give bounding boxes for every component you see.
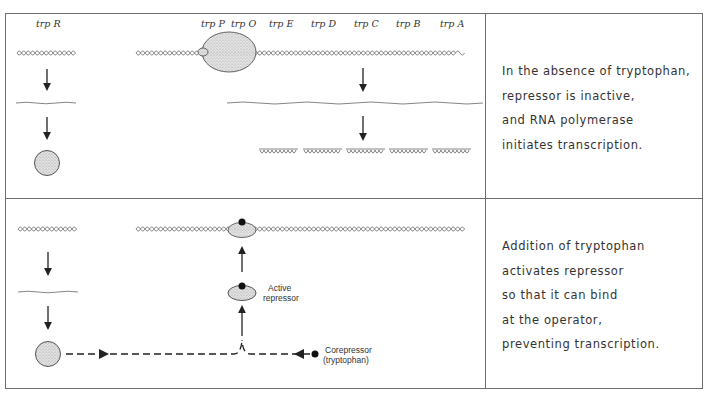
rna-polymerase-icon	[198, 32, 256, 72]
trp-operon-dna-icon	[136, 227, 465, 231]
corepressor-icon	[312, 351, 319, 358]
caption-line: so that it can bind	[502, 283, 660, 308]
gene-label-trpD: trp D	[311, 18, 336, 29]
gene-label-trpB: trp B	[396, 18, 420, 29]
trp-operon-dna-icon	[136, 51, 465, 55]
gene-label-trpA: trp A	[440, 18, 464, 29]
caption-line: preventing transcription.	[502, 332, 660, 357]
gene-label-trpE: trp E	[269, 18, 293, 29]
gene-label-trpP: trp P	[201, 18, 225, 29]
caption-line: repressor is inactive,	[502, 84, 690, 109]
caption-line: and RNA polymerase	[502, 108, 690, 133]
caption-line: at the operator,	[502, 308, 660, 333]
corepressor-label: Corepressor	[325, 345, 372, 355]
inactive-repressor-icon	[35, 151, 60, 176]
polypeptide-trpD-icon	[303, 149, 342, 153]
trp-mrna	[227, 102, 483, 104]
inactive-repressor-icon	[36, 342, 61, 367]
trpR-gene-dna-icon	[17, 51, 76, 55]
caption-presence: Addition of tryptophan activates repress…	[502, 234, 660, 357]
trpR-gene-dna-icon	[18, 227, 77, 231]
caption-line: initiates transcription.	[502, 133, 690, 158]
caption-line: In the absence of tryptophan,	[502, 59, 690, 84]
trpR-mrna	[16, 102, 76, 104]
polypeptide-trpE-icon	[259, 149, 298, 153]
gene-label-trpR: trp R	[36, 18, 61, 29]
gene-label-trpC: trp C	[354, 18, 379, 29]
arrow-right-icon	[99, 349, 109, 359]
polypeptide-trpB-icon	[389, 149, 428, 153]
gene-label-trpO: trp O	[231, 18, 256, 29]
caption-line: Addition of tryptophan	[502, 234, 660, 259]
active-repressor-icon	[228, 283, 256, 301]
polypeptide-trpA-icon	[432, 149, 471, 153]
trpR-mrna	[18, 291, 78, 293]
active-repressor-label: Active	[268, 283, 291, 293]
polypeptide-trpC-icon	[346, 149, 385, 153]
active-repressor-label: repressor	[263, 293, 299, 303]
arrow-left-icon	[294, 349, 304, 359]
caption-absence: In the absence of tryptophan, repressor …	[502, 59, 690, 157]
corepressor-label: (tryptophan)	[323, 355, 369, 365]
enzyme-polypeptides	[259, 149, 471, 153]
bound-repressor-icon	[228, 219, 256, 238]
caption-line: activates repressor	[502, 259, 660, 284]
